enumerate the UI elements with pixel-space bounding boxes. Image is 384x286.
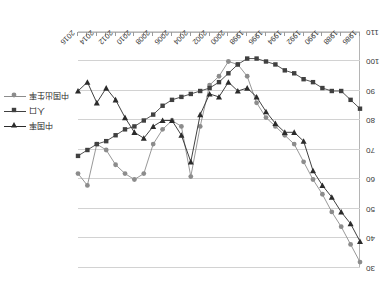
data-point	[226, 59, 231, 64]
data-point	[217, 74, 222, 79]
data-point	[76, 171, 81, 176]
data-point	[141, 171, 146, 176]
legend-item-label: 人口	[29, 106, 45, 117]
data-point	[339, 224, 344, 229]
data-point	[76, 154, 80, 158]
data-point	[310, 168, 316, 174]
y-axis-tick-label: 80	[366, 117, 384, 125]
data-point	[283, 68, 287, 72]
data-point	[95, 142, 99, 146]
legend-square-icon	[4, 107, 26, 117]
data-point	[273, 62, 277, 66]
data-point	[150, 123, 156, 129]
data-point	[254, 100, 259, 105]
data-point	[217, 80, 221, 84]
data-point	[330, 89, 334, 93]
series-line	[78, 62, 360, 263]
y-axis-tick-label: 50	[366, 205, 384, 213]
data-point	[94, 100, 100, 106]
data-point	[197, 112, 203, 118]
data-point	[198, 89, 202, 93]
data-point	[358, 260, 363, 265]
data-point	[142, 118, 146, 122]
data-point	[85, 183, 90, 188]
legend-item[interactable]: 人口	[4, 104, 70, 119]
data-point	[189, 92, 193, 96]
data-point	[358, 107, 362, 111]
data-point	[103, 85, 109, 91]
data-point	[226, 71, 230, 75]
data-point	[311, 80, 315, 84]
data-point	[160, 104, 164, 108]
data-point	[264, 115, 269, 120]
series-circle	[76, 59, 363, 264]
plot-area: 30405060708090100110 1986198819901992199…	[78, 32, 360, 268]
legend-triangle-down-icon	[4, 122, 26, 132]
data-point	[292, 71, 296, 75]
data-point	[329, 210, 334, 215]
data-point	[132, 124, 136, 128]
data-point	[338, 209, 344, 215]
data-point	[84, 79, 90, 85]
data-point	[113, 133, 117, 137]
data-point	[122, 115, 128, 121]
data-point	[301, 77, 305, 81]
data-point	[179, 95, 183, 99]
data-point	[263, 109, 269, 115]
data-point	[264, 59, 268, 63]
data-point	[188, 174, 193, 179]
data-point	[188, 159, 194, 165]
series-square	[76, 56, 362, 158]
legend-symbol	[10, 105, 18, 115]
data-point	[123, 127, 127, 131]
data-point	[132, 177, 137, 182]
data-point	[113, 162, 118, 167]
data-point	[311, 177, 316, 182]
legend-symbol	[10, 120, 18, 130]
y-axis-tick-label: 60	[366, 176, 384, 184]
y-axis-tick-label: 30	[366, 264, 384, 272]
y-axis-tick-label: 70	[366, 146, 384, 154]
data-point	[254, 56, 258, 60]
data-point	[244, 85, 250, 91]
y-axis-tick-label: 110	[366, 28, 384, 36]
data-point	[245, 56, 249, 60]
legend-item[interactable]: 中国率	[4, 119, 70, 134]
plot-wrapper: 30405060708090100110 1986198819901992199…	[78, 32, 360, 268]
data-point	[320, 192, 325, 197]
series-line	[78, 82, 360, 241]
data-point	[178, 132, 184, 138]
data-point	[151, 112, 155, 116]
data-point	[301, 159, 306, 164]
data-point	[319, 182, 325, 188]
data-point	[170, 98, 174, 102]
data-point	[348, 242, 353, 247]
y-axis-tick-label: 100	[366, 58, 384, 66]
series-line	[78, 59, 360, 156]
data-point	[339, 89, 343, 93]
data-point	[348, 98, 352, 102]
data-point	[357, 238, 363, 244]
data-point	[320, 86, 324, 90]
data-point	[123, 171, 128, 176]
legend-item-label: 中国率	[29, 121, 53, 132]
legend-item-label: 中国出生率	[29, 91, 69, 102]
data-point	[104, 139, 108, 143]
y-axis-tick-label: 90	[366, 87, 384, 95]
y-axis-tick-label: 40	[366, 235, 384, 243]
legend-symbol	[10, 90, 18, 100]
data-point	[179, 124, 184, 129]
series-triangle-down	[75, 79, 363, 244]
legend-item[interactable]: 中国出生率	[4, 89, 70, 104]
series-plot	[78, 32, 360, 268]
x-axis-tick-label: 2016	[59, 28, 76, 45]
data-point	[151, 142, 156, 147]
data-point	[236, 62, 240, 66]
data-point	[131, 129, 137, 135]
data-point	[207, 86, 211, 90]
legend-circle-icon	[4, 92, 26, 102]
data-point	[292, 142, 297, 147]
data-point	[245, 74, 250, 79]
data-point	[160, 127, 165, 132]
